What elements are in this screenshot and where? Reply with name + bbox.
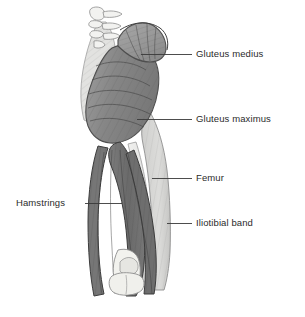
label-gluteus-maximus: Gluteus maximus [196,114,271,124]
label-iliotibial-band: Iliotibial band [196,218,253,228]
label-gluteus-medius: Gluteus medius [196,49,263,59]
label-femur: Femur [196,173,224,183]
label-hamstrings: Hamstrings [16,198,65,208]
